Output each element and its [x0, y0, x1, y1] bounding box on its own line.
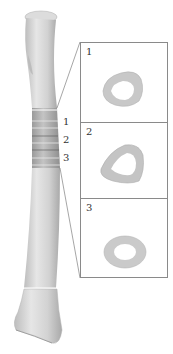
band-label-2: 2: [63, 135, 69, 145]
cross-section-box-3: 3: [80, 198, 168, 278]
bone-head: [25, 11, 57, 108]
bone-distal-end: [14, 289, 62, 343]
band-label-3: 3: [63, 153, 69, 163]
connector-line-top: [57, 42, 80, 108]
cross-section-box-1: 1: [80, 42, 168, 123]
bone-lower-shaft: [24, 168, 60, 288]
connector-line-bottom: [60, 168, 80, 278]
bone-shaft-bands: [32, 108, 60, 168]
cross-section-box-2: 2: [80, 122, 168, 199]
bone-figure: 1 2 3 1 2 3: [0, 0, 173, 354]
cross-section-2-shape: [81, 123, 169, 200]
cross-section-1-shape: [81, 43, 169, 124]
band-label-1: 1: [63, 117, 69, 127]
cross-section-3-shape: [81, 199, 169, 279]
